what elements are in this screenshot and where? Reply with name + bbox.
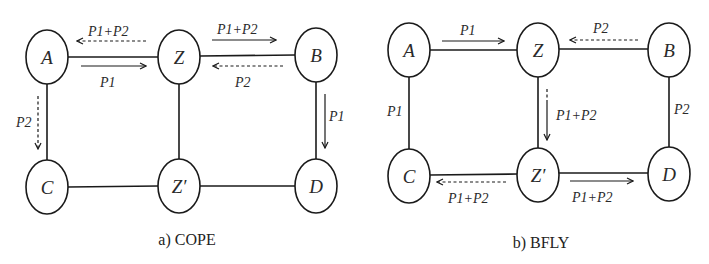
flow-label-b-to-z: P2 [234, 75, 251, 90]
caption-bfly: b) BFLY [513, 234, 570, 252]
node-label: D [661, 164, 676, 185]
flow-label-zp-to-c: P1+P2 [447, 191, 489, 206]
caption-cope: a) COPE [158, 231, 215, 249]
node-label: B [663, 40, 675, 61]
node-c: C [388, 149, 430, 203]
flow-label-z-to-b: P1+P2 [216, 22, 258, 37]
node-z-prime: Z′ [158, 159, 200, 213]
node-z-prime: Z′ [517, 148, 559, 202]
flow-label-z-to-zp: P1+P2 [555, 108, 597, 123]
node-label: Z′ [531, 165, 547, 186]
node-b: B [648, 23, 690, 77]
flow-label-z-to-a: P1+P2 [87, 24, 129, 39]
node-label: A [39, 47, 53, 68]
node-z: Z [158, 30, 200, 84]
node-label: D [308, 176, 323, 197]
node-label: Z′ [172, 176, 188, 197]
node-d: D [648, 147, 690, 201]
flow-label-a-to-z: P1 [99, 75, 116, 90]
panel-cope: P1+P2 P1 P1+P2 P2 P2 P1 A Z B C Z′ [15, 22, 345, 249]
node-a: A [26, 30, 68, 84]
edge-c-zp [68, 186, 158, 187]
node-b: B [295, 28, 337, 82]
flow-label-b-to-z: P2 [592, 21, 609, 36]
node-label: B [310, 45, 322, 66]
node-label: Z [174, 47, 185, 68]
network-coding-figure: P1+P2 P1 P1+P2 P2 P2 P1 A Z B C Z′ [0, 0, 709, 264]
edge-c-zp [430, 174, 517, 175]
flow-label-a-to-z: P1 [459, 23, 476, 38]
flow-label-b-to-d: P1 [328, 109, 345, 124]
node-label: C [403, 166, 416, 187]
node-label: C [41, 177, 54, 198]
flow-label-zp-to-d: P1+P2 [571, 190, 613, 205]
edge-z-b [200, 55, 295, 56]
node-label: Z [533, 40, 544, 61]
panel-bfly: P1 P2 P1 P2 P1+P2 P1+P2 P1+P2 A Z B C [386, 21, 690, 252]
node-label: A [401, 40, 415, 61]
edge-label-b-d: P2 [673, 102, 690, 117]
node-c: C [26, 160, 68, 214]
flow-label-a-to-c: P2 [15, 115, 32, 130]
edge-label-a-c: P1 [386, 104, 403, 119]
node-z: Z [517, 23, 559, 77]
node-a: A [388, 23, 430, 77]
node-d: D [295, 159, 337, 213]
